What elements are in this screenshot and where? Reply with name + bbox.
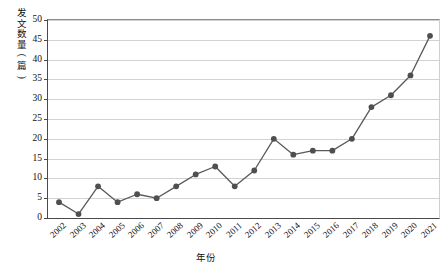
data-point-marker [369, 104, 375, 110]
x-tick-label: 2016 [322, 221, 341, 240]
y-tick-label: 30 [33, 94, 43, 104]
y-tick-label: 45 [33, 35, 43, 45]
y-axis-title-char: 文 [14, 19, 30, 30]
x-tick-label: 2020 [400, 221, 419, 240]
data-point-marker [290, 152, 296, 158]
x-tick-label: 2011 [225, 221, 244, 240]
y-tick-label: 35 [33, 75, 43, 85]
y-tick-label: 10 [33, 174, 43, 184]
x-axis-title-text: 年份 [196, 253, 216, 263]
data-point-marker [173, 183, 179, 189]
x-axis-title: 年份 [0, 250, 448, 264]
y-axis-title-char: 数 [14, 29, 30, 40]
series-line-path [48, 20, 439, 218]
x-tick-label: 2006 [127, 221, 146, 240]
data-point-marker [95, 183, 101, 189]
y-tick-label: 5 [37, 193, 42, 203]
x-tick-label: 2014 [283, 221, 302, 240]
data-point-marker [76, 211, 82, 217]
y-tick-label: 0 [37, 213, 42, 223]
x-tick-label: 2018 [361, 221, 380, 240]
x-tick-label: 2013 [263, 221, 282, 240]
x-tick-label: 2017 [342, 221, 361, 240]
data-point-marker [329, 148, 335, 154]
y-tick-label: 25 [33, 114, 43, 124]
plot-area: 05101520253035404550 [47, 19, 440, 219]
x-tick-label: 2005 [107, 221, 126, 240]
data-point-marker [232, 183, 238, 189]
data-point-marker [115, 199, 121, 205]
x-tick-label: 2009 [185, 221, 204, 240]
data-point-marker [310, 148, 316, 154]
x-tick-label: 2021 [420, 221, 439, 240]
y-tick-label: 50 [33, 15, 43, 25]
data-point-marker [349, 136, 355, 142]
x-tick-label: 2004 [88, 221, 107, 240]
y-axis-title-char: ( [17, 48, 28, 64]
x-tick-label: 2008 [166, 221, 185, 240]
y-axis-title-char: 发 [14, 8, 30, 19]
x-tick-label: 2015 [302, 221, 321, 240]
x-tick-label: 2010 [205, 221, 224, 240]
x-tick-label: 2007 [146, 221, 165, 240]
y-axis-title-char: ) [17, 69, 28, 85]
x-tick-label: 2012 [244, 221, 263, 240]
data-point-marker [154, 195, 160, 201]
y-tick-label: 15 [33, 154, 43, 164]
data-point-marker [408, 73, 414, 79]
data-point-marker [427, 33, 433, 39]
x-tick-label: 2002 [49, 221, 68, 240]
data-point-marker [271, 136, 277, 142]
y-tick-label: 40 [33, 55, 43, 65]
x-tick-label: 2003 [68, 221, 87, 240]
data-point-marker [212, 164, 218, 170]
y-axis-title: 发 文 数 量 ( 篇 ) [14, 8, 30, 82]
data-point-marker [388, 92, 394, 98]
y-tick-label: 20 [33, 134, 43, 144]
line-chart-figure: 发 文 数 量 ( 篇 ) 05101520253035404550 20022… [0, 0, 448, 272]
series-polyline [59, 36, 430, 214]
data-point-marker [193, 172, 199, 178]
data-point-marker [56, 199, 62, 205]
x-tick-label: 2019 [381, 221, 400, 240]
data-point-marker [134, 191, 140, 197]
data-point-marker [251, 168, 257, 174]
y-tick-mark [44, 218, 48, 219]
